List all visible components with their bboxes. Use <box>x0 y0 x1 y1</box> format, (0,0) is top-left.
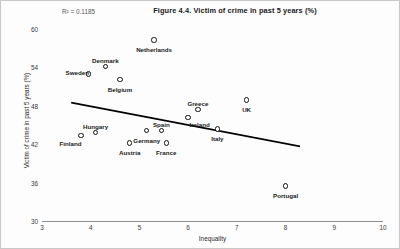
y-tick-label: 60 <box>16 26 38 33</box>
y-axis-ticks: 303642485460 <box>10 0 38 249</box>
data-point-marker <box>151 37 156 42</box>
data-point-label: Belgium <box>108 86 132 93</box>
data-point-marker <box>93 130 98 135</box>
figure-container: R² = 0.1185 Figure 4.4. Victim of crime … <box>0 0 400 249</box>
data-point-marker <box>117 77 122 82</box>
data-point-label: Hungary <box>83 123 108 130</box>
data-point-label: Finland <box>59 140 81 147</box>
data-point-label: Netherlands <box>136 46 172 53</box>
x-tick-label: 7 <box>225 224 249 231</box>
x-tick-label: 4 <box>79 224 103 231</box>
y-tick-label: 42 <box>16 141 38 148</box>
y-tick-label: 36 <box>16 179 38 186</box>
chart-title: Figure 4.4. Victim of crime in past 5 ye… <box>120 6 350 15</box>
data-point-marker <box>144 128 149 133</box>
data-point-marker <box>164 140 169 145</box>
y-tick-label: 54 <box>16 64 38 71</box>
x-tick-label: 10 <box>371 224 395 231</box>
x-tick-label: 6 <box>176 224 200 231</box>
y-tick-label: 48 <box>16 102 38 109</box>
x-axis-line <box>42 221 383 222</box>
data-point-marker <box>195 107 200 112</box>
r-squared-annotation: R² = 0.1185 <box>62 8 95 15</box>
x-tick-label: 3 <box>30 224 54 231</box>
data-point-label: Portugal <box>273 192 298 199</box>
data-point-label: UK <box>242 106 251 113</box>
data-point-label: Ireland <box>189 121 209 128</box>
x-tick-label: 9 <box>322 224 346 231</box>
data-point-marker <box>103 64 108 69</box>
data-point-label: Denmark <box>92 57 118 64</box>
data-point-label: Austria <box>119 149 140 156</box>
data-point-marker <box>78 133 83 138</box>
x-tick-label: 5 <box>127 224 151 231</box>
plot-area: NetherlandsDenmarkSwedenBelgiumUKGreeceI… <box>42 29 383 221</box>
data-point-marker <box>283 183 288 188</box>
data-point-marker <box>215 126 220 131</box>
data-point-label: Germany <box>133 137 160 144</box>
data-point-label: France <box>156 149 176 156</box>
data-point-marker <box>185 115 190 120</box>
data-point-label: Italy <box>211 135 223 142</box>
data-point-marker <box>127 140 132 145</box>
data-point-label: Spain <box>153 121 170 128</box>
data-point-marker <box>159 128 164 133</box>
data-point-marker <box>244 97 249 102</box>
x-axis-title: Inequality <box>42 235 383 242</box>
data-point-label: Sweden <box>66 69 89 76</box>
data-point-label: Greece <box>187 100 208 107</box>
x-axis-ticks: 345678910 <box>42 224 383 236</box>
x-tick-label: 8 <box>274 224 298 231</box>
